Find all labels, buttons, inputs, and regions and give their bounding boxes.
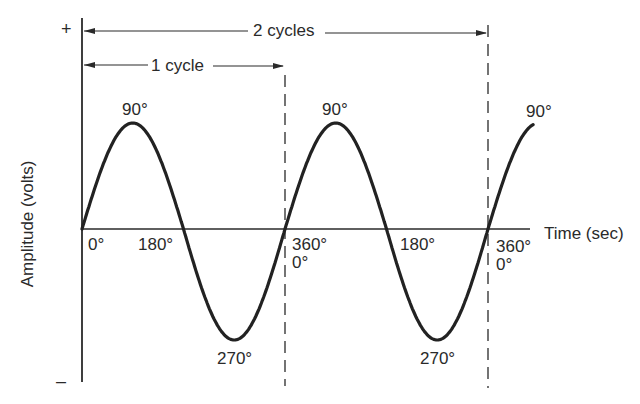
phase-label-90: 90° (526, 103, 552, 120)
arrowhead-left-icon (84, 28, 95, 34)
sine-wave-diagram: + – Amplitude (volts) 2 cycles 1 cycle T… (0, 0, 640, 404)
phase-label-360: 360° (292, 236, 327, 253)
phase-label-0: 0° (292, 254, 308, 271)
diagram-canvas (0, 0, 640, 404)
sine-wave-curve (82, 123, 533, 340)
phase-label-90: 90° (122, 101, 148, 118)
plus-sign-label: + (61, 20, 72, 38)
one-cycle-label: 1 cycle (151, 57, 204, 74)
phase-label-270: 270° (420, 350, 455, 367)
phase-label-180: 180° (138, 236, 173, 253)
phase-label-180: 180° (400, 236, 435, 253)
arrowhead-left-icon (84, 62, 95, 68)
phase-label-270: 270° (217, 350, 252, 367)
arrowhead-right-icon (273, 63, 284, 69)
y-axis-label: Amplitude (volts) (18, 161, 38, 288)
phase-label-0: 0° (496, 256, 512, 273)
time-axis-label: Time (sec) (544, 225, 624, 242)
phase-label-0: 0° (88, 236, 104, 253)
minus-sign-label: – (56, 372, 66, 390)
two-cycles-label: 2 cycles (253, 22, 314, 39)
phase-label-90: 90° (322, 101, 348, 118)
phase-label-360: 360° (496, 238, 531, 255)
arrowhead-right-icon (476, 30, 487, 36)
